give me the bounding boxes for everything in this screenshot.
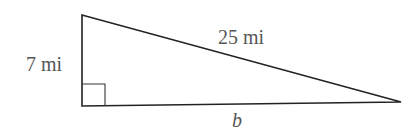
horizontal-leg-label: b [232,110,242,130]
vertical-leg-label: 7 mi [26,54,62,74]
triangle-diagram: 7 mi 25 mi b [0,0,418,134]
hypotenuse-label: 25 mi [218,27,264,47]
triangle-shape [0,0,418,134]
right-angle-marker [82,84,105,106]
